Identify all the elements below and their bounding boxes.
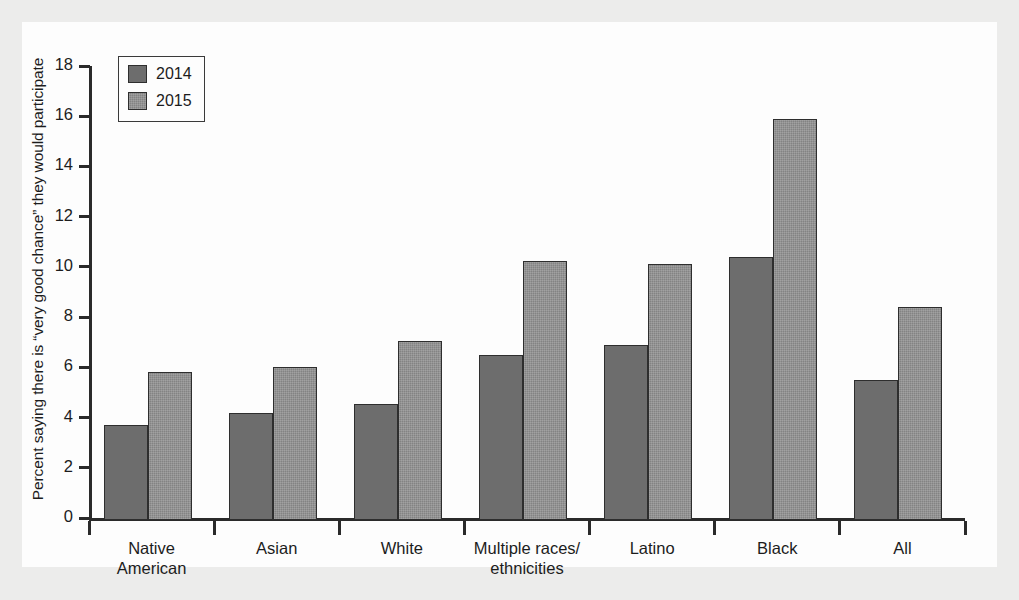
legend-label-2014: 2014: [156, 65, 192, 83]
category-label-latino: Latino: [590, 538, 715, 558]
bar-2014-latino: [604, 345, 648, 520]
category-label-line: Black: [715, 538, 840, 558]
bar-2015-multiple-races-ethnicities: [523, 261, 567, 520]
category-label-multiple-races-ethnicities: Multiple races/ethnicities: [464, 538, 589, 578]
y-tick-14: [79, 165, 90, 168]
chart-paper: Percent saying there is “very good chanc…: [22, 22, 997, 567]
legend-label-2015: 2015: [156, 92, 192, 110]
bar-2014-white: [354, 404, 398, 520]
category-label-line: White: [339, 538, 464, 558]
bar-2015-black: [773, 119, 817, 520]
y-tick-label-12: 12: [30, 206, 73, 225]
bar-chart: Percent saying there is “very good chanc…: [22, 22, 997, 567]
legend-swatch-2014: [128, 65, 147, 83]
y-tick-label-8: 8: [30, 306, 73, 325]
x-tick-start: [88, 521, 91, 535]
y-tick-label-2: 2: [30, 457, 73, 476]
x-tick: [713, 521, 716, 535]
category-label-all: All: [840, 538, 965, 558]
x-tick-end: [964, 521, 967, 535]
category-label-line: ethnicities: [464, 558, 589, 578]
category-label-asian: Asian: [214, 538, 339, 558]
legend-swatch-2015: [128, 92, 147, 110]
x-tick: [338, 521, 341, 535]
bar-2015-native-american: [148, 372, 192, 520]
bar-2015-asian: [273, 367, 317, 520]
y-tick-label-10: 10: [30, 256, 73, 275]
category-label-black: Black: [715, 538, 840, 558]
legend-entry-2015: 2015: [128, 92, 192, 110]
legend-entry-2014: 2014: [128, 65, 192, 83]
category-label-line: All: [840, 538, 965, 558]
bar-2015-white: [398, 341, 442, 520]
y-tick-label-18: 18: [30, 55, 73, 74]
y-tick-label-14: 14: [30, 155, 73, 174]
x-tick: [838, 521, 841, 535]
y-tick-12: [79, 215, 90, 218]
x-tick: [463, 521, 466, 535]
y-tick-6: [79, 366, 90, 369]
bar-2014-native-american: [104, 425, 148, 520]
y-tick-0: [79, 517, 90, 520]
bar-2014-asian: [229, 413, 273, 520]
y-tick-2: [79, 466, 90, 469]
y-tick-label-4: 4: [30, 407, 73, 426]
bar-2015-all: [898, 307, 942, 520]
category-label-white: White: [339, 538, 464, 558]
chart-legend: 2014 2015: [118, 56, 205, 122]
y-tick-10: [79, 265, 90, 268]
x-tick: [213, 521, 216, 535]
y-axis-line: [89, 66, 92, 521]
y-tick-label-6: 6: [30, 356, 73, 375]
y-tick-label-0: 0: [30, 507, 73, 526]
category-label-line: Asian: [214, 538, 339, 558]
bar-2015-latino: [648, 264, 692, 520]
y-tick-label-16: 16: [30, 105, 73, 124]
x-tick: [588, 521, 591, 535]
y-tick-18: [79, 65, 90, 68]
category-label-native-american: NativeAmerican: [89, 538, 214, 578]
category-label-line: American: [89, 558, 214, 578]
y-tick-16: [79, 115, 90, 118]
category-label-line: Native: [89, 538, 214, 558]
category-label-line: Multiple races/: [464, 538, 589, 558]
bar-2014-all: [854, 380, 898, 520]
scanned-page: Percent saying there is “very good chanc…: [0, 0, 1019, 600]
bar-2014-black: [729, 257, 773, 520]
y-tick-8: [79, 316, 90, 319]
bar-2014-multiple-races-ethnicities: [479, 355, 523, 520]
category-label-line: Latino: [590, 538, 715, 558]
y-tick-4: [79, 416, 90, 419]
